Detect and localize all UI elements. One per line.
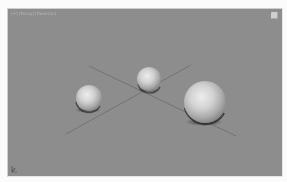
perspective-viewport[interactable]: [+] [Persp] [Realistic] (7, 8, 283, 177)
sphere-right[interactable] (184, 81, 226, 126)
sphere-middle[interactable] (137, 67, 161, 93)
viewcube-icon[interactable] (271, 12, 278, 19)
axis-tripod-icon (10, 164, 19, 173)
sphere-left[interactable] (75, 85, 102, 113)
scene-canvas[interactable] (8, 9, 282, 176)
app-window: [+] [Persp] [Realistic] (0, 0, 287, 182)
viewport-label[interactable]: [+] [Persp] [Realistic] (11, 11, 56, 16)
